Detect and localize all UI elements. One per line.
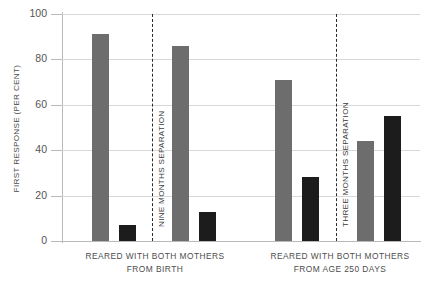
y-axis-tick-labels: 100 80 60 40 20 0 (0, 14, 47, 241)
bar (199, 212, 216, 242)
gridline (62, 105, 420, 106)
plot-area: NINE MONTHS SEPARATIONTHREE MONTHS SEPAR… (62, 14, 420, 241)
bar-chart: FIRST RESPONSE (PER CENT) 100 80 60 40 2… (0, 0, 429, 286)
y-tick-label: 0 (3, 234, 47, 246)
y-tick-label: 60 (3, 98, 47, 110)
group-caption-line: FROM AGE 250 DAYS (250, 263, 429, 276)
y-axis-tick (51, 59, 62, 60)
group-caption: REARED WITH BOTH MOTHERSFROM AGE 250 DAY… (250, 250, 429, 275)
y-axis-tick (51, 241, 62, 242)
bar (172, 46, 189, 241)
y-axis-tick (51, 105, 62, 106)
bar (92, 34, 109, 241)
gridline (62, 14, 420, 15)
bar (275, 80, 292, 241)
separator-label: THREE MONTHS SEPARATION (341, 102, 350, 227)
y-tick-label: 100 (3, 7, 47, 19)
y-axis-tick (51, 150, 62, 151)
y-tick-label: 40 (3, 143, 47, 155)
group-caption: REARED WITH BOTH MOTHERSFROM BIRTH (65, 250, 245, 275)
bar (357, 141, 374, 241)
bar (119, 225, 136, 241)
y-tick-label: 80 (3, 52, 47, 64)
gridline (62, 59, 420, 60)
group-caption-line: FROM BIRTH (65, 263, 245, 276)
bar (302, 177, 319, 241)
y-axis-tick (51, 196, 62, 197)
bar (384, 116, 401, 241)
gridline (62, 241, 420, 242)
group-caption-line: REARED WITH BOTH MOTHERS (85, 251, 224, 261)
y-tick-label: 20 (3, 189, 47, 201)
separator-label: NINE MONTHS SEPARATION (157, 111, 166, 227)
group-caption-line: REARED WITH BOTH MOTHERS (270, 251, 409, 261)
y-axis-tick (51, 14, 62, 15)
separator-line (152, 14, 153, 241)
separator-line (336, 14, 337, 241)
